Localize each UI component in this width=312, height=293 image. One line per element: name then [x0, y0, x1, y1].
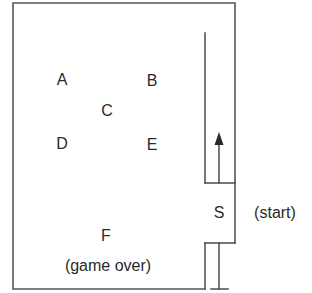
position-label-e: E: [147, 137, 158, 153]
position-label-d: D: [56, 136, 68, 152]
position-label-f: F: [101, 228, 111, 244]
game-over-note: (game over): [65, 258, 151, 274]
outer-wall: [13, 3, 235, 289]
position-label-s: S: [214, 205, 225, 221]
start-note: (start): [254, 205, 296, 221]
position-label-c: C: [101, 103, 113, 119]
launch-arrow-head-icon: [215, 132, 224, 145]
pinball-diagram: A B C D E F (game over) S (start): [0, 0, 312, 293]
position-label-b: B: [147, 73, 158, 89]
position-label-a: A: [57, 72, 68, 88]
